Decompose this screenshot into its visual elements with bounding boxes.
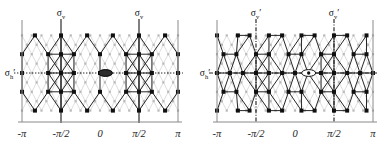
faint-node xyxy=(240,81,242,83)
faint-edge xyxy=(76,101,81,110)
faint-edge xyxy=(276,45,281,54)
faint-edge xyxy=(71,101,76,110)
faint-edge xyxy=(285,64,290,73)
faint-node xyxy=(89,110,91,112)
x-tick-label-0: -π xyxy=(18,128,27,139)
faint-edge xyxy=(163,73,168,82)
faint-node xyxy=(274,53,276,55)
faint-node xyxy=(167,34,169,36)
sigma-v-left: σv xyxy=(57,8,66,20)
faint-edge xyxy=(280,82,285,91)
faint-edge xyxy=(32,82,37,91)
faint-node xyxy=(172,81,174,83)
faint-edge xyxy=(32,64,37,73)
faint-node xyxy=(89,53,91,55)
faint-edge xyxy=(81,92,86,101)
lattice-node xyxy=(345,33,349,37)
faint-edge xyxy=(159,45,164,54)
lattice-node xyxy=(365,90,369,94)
lattice-node xyxy=(59,71,63,75)
faint-node xyxy=(109,91,111,93)
faint-node xyxy=(352,110,354,112)
lattice-node xyxy=(254,71,258,75)
lattice-node xyxy=(33,33,37,37)
faint-edge xyxy=(173,35,178,44)
faint-edge xyxy=(42,82,47,91)
faint-node xyxy=(109,110,111,112)
faint-node xyxy=(84,100,86,102)
lattice-node xyxy=(59,90,63,94)
faint-edge xyxy=(237,64,242,73)
faint-edge xyxy=(81,73,86,82)
filled-bond-marker xyxy=(98,70,112,77)
faint-node xyxy=(114,63,116,65)
faint-node xyxy=(313,91,315,93)
faint-node xyxy=(309,81,311,83)
faint-node xyxy=(270,100,272,102)
faint-node xyxy=(94,81,96,83)
faint-node xyxy=(250,100,252,102)
sigma-h-prime: σh′ xyxy=(5,68,15,80)
faint-edge xyxy=(115,92,120,101)
faint-node xyxy=(304,91,306,93)
faint-edge xyxy=(222,101,227,110)
faint-node xyxy=(289,100,291,102)
faint-node xyxy=(299,63,301,65)
lattice-node xyxy=(59,33,63,37)
lattice-node xyxy=(221,90,225,94)
faint-edge xyxy=(42,101,47,110)
faint-node xyxy=(157,110,159,112)
faint-node xyxy=(45,81,47,83)
lattice-node xyxy=(221,52,225,56)
faint-node xyxy=(357,81,359,83)
lattice-node xyxy=(163,109,167,113)
faint-node xyxy=(118,53,120,55)
faint-edge xyxy=(349,101,354,110)
faint-node xyxy=(40,110,42,112)
faint-edge xyxy=(115,45,120,54)
faint-edge xyxy=(85,82,90,91)
lattice-node xyxy=(163,33,167,37)
faint-edge xyxy=(110,54,115,63)
faint-edge xyxy=(95,101,100,110)
symmetry-lattice-figure: -π-π/20π/2πσvσvσh′ -π-π/20π/2πσv′σv′σh′ xyxy=(0,0,387,149)
faint-edge xyxy=(154,82,159,91)
sigma-h-prime: σh′ xyxy=(200,68,210,80)
faint-node xyxy=(109,53,111,55)
lattice-node xyxy=(111,109,115,113)
faint-node xyxy=(148,34,150,36)
faint-edge xyxy=(37,82,42,91)
faint-edge xyxy=(46,101,51,110)
faint-edge xyxy=(358,54,363,63)
faint-node xyxy=(79,91,81,93)
lattice-node xyxy=(248,33,252,37)
faint-node xyxy=(26,63,28,65)
faint-edge xyxy=(280,45,285,54)
faint-edge xyxy=(276,92,281,101)
faint-edge xyxy=(168,73,173,82)
faint-node xyxy=(221,63,223,65)
faint-edge xyxy=(159,64,164,73)
faint-node xyxy=(40,91,42,93)
faint-edge xyxy=(276,82,281,91)
faint-node xyxy=(75,63,77,65)
faint-node xyxy=(323,110,325,112)
faint-node xyxy=(167,110,169,112)
faint-edge xyxy=(290,35,295,44)
faint-node xyxy=(84,63,86,65)
lattice-node xyxy=(358,71,362,75)
faint-node xyxy=(289,63,291,65)
x-tick-label-2: 0 xyxy=(292,128,298,139)
faint-edge xyxy=(22,101,27,110)
faint-node xyxy=(123,44,125,46)
faint-edge xyxy=(120,101,125,110)
faint-edge xyxy=(90,73,95,82)
lattice-node xyxy=(59,52,63,56)
faint-node xyxy=(36,63,38,65)
faint-edge xyxy=(310,45,315,54)
left-panel-plot: -π-π/20π/2πσvσvσh′ xyxy=(0,0,193,149)
faint-edge xyxy=(319,101,324,110)
lattice-node xyxy=(46,90,50,94)
lattice-node xyxy=(124,52,128,56)
faint-node xyxy=(299,100,301,102)
